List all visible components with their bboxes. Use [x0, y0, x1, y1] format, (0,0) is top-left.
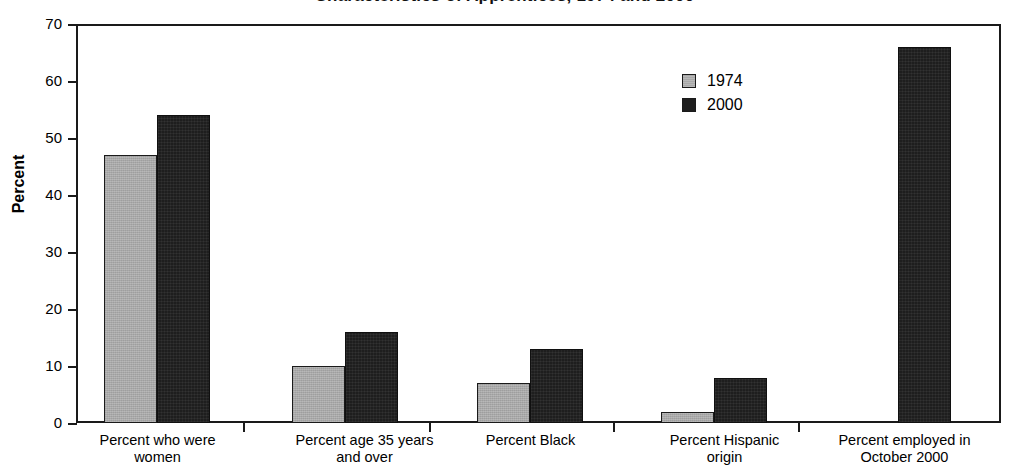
- y-tick-label-50: 50: [18, 130, 62, 145]
- gray-square-swatch-icon: [682, 74, 696, 88]
- y-tick-label-60: 60: [18, 73, 62, 88]
- y-tick-label-70: 70: [18, 16, 62, 31]
- x-tick-mark-1: [243, 423, 245, 432]
- y-tick-label-0: 0: [18, 415, 62, 430]
- bar-1974-percent-black[interactable]: [477, 383, 530, 423]
- y-tick-40: 40: [0, 195, 62, 196]
- y-tick-0: 0: [0, 423, 62, 424]
- x-tick-mark-4: [798, 423, 800, 432]
- legend-item-1974[interactable]: 1974: [682, 69, 743, 93]
- y-tick-30: 30: [0, 252, 62, 253]
- y-axis-label: Percent: [10, 139, 28, 229]
- y-tick-60: 60: [0, 81, 62, 82]
- x-category-label-employed: Percent employed in October 2000: [800, 432, 1009, 466]
- y-tick-10: 10: [0, 366, 62, 367]
- legend-label-1974: 1974: [707, 73, 743, 89]
- legend-label-2000: 2000: [707, 97, 743, 113]
- y-tick-mark-0: [68, 423, 77, 425]
- y-tick-label-40: 40: [18, 187, 62, 202]
- bar-1974-percent-hispanic-origin[interactable]: [661, 412, 714, 423]
- y-tick-70: 70: [0, 24, 62, 25]
- chart-title: Characteristics of Apprentices, 1974 and…: [0, 0, 1009, 6]
- chart-page: Characteristics of Apprentices, 1974 and…: [0, 0, 1009, 469]
- y-tick-20: 20: [0, 309, 62, 310]
- x-category-label-black-line1: Percent Black: [438, 432, 623, 449]
- x-category-label-employed-line1: Percent employed in: [800, 432, 1009, 449]
- bar-2000-percent-hispanic-origin[interactable]: [714, 378, 767, 423]
- x-category-label-employed-line2: October 2000: [800, 449, 1009, 466]
- legend-item-2000[interactable]: 2000: [682, 93, 743, 117]
- x-category-label-age-35-line2: and over: [237, 449, 492, 466]
- y-tick-label-20: 20: [18, 301, 62, 316]
- bar-1974-percent-age-35-years-and-over[interactable]: [292, 366, 345, 423]
- y-tick-label-30: 30: [18, 244, 62, 259]
- bar-2000-percent-age-35-years-and-over[interactable]: [345, 332, 398, 423]
- x-tick-mark-2: [429, 423, 431, 432]
- bar-2000-percent-who-were-women[interactable]: [157, 115, 210, 423]
- x-category-label-black: Percent Black: [438, 432, 623, 449]
- bar-2000-percent-employed-in-october-2000[interactable]: [898, 47, 951, 423]
- bar-2000-percent-black[interactable]: [530, 349, 583, 423]
- legend: 1974 2000: [682, 69, 743, 117]
- y-tick-label-10: 10: [18, 358, 62, 373]
- bar-1974-percent-who-were-women[interactable]: [104, 155, 157, 423]
- black-square-swatch-icon: [682, 98, 696, 112]
- x-tick-mark-3: [613, 423, 615, 432]
- y-tick-50: 50: [0, 138, 62, 139]
